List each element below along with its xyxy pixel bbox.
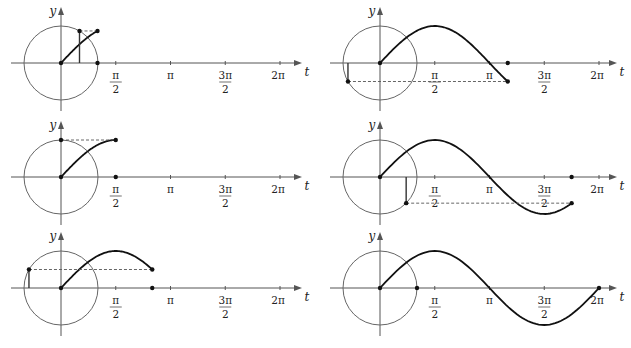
tick-label-half_pi-denominator: 2: [112, 83, 119, 95]
y-axis-arrow-icon: [58, 121, 64, 129]
tick-label-half_pi-numerator: π: [112, 183, 119, 195]
y-axis-arrow-icon: [377, 232, 383, 240]
origin-point: [378, 286, 382, 290]
t-axis-label: t: [305, 290, 310, 304]
t-value-marker: [569, 175, 573, 179]
t-value-marker: [114, 175, 118, 179]
tick-label-two_pi: 2π: [590, 183, 604, 195]
tick-label-three_half_pi-denominator: 2: [541, 83, 548, 95]
tick-label-two_pi: 2π: [271, 294, 285, 306]
y-axis-arrow-icon: [58, 232, 64, 240]
circle-point: [59, 138, 63, 142]
tick-label-pi: π: [486, 294, 493, 306]
t-axis-arrow-icon: [294, 60, 302, 66]
circle-point: [346, 79, 350, 83]
tick-label-half_pi-numerator: π: [431, 183, 438, 195]
curve-endpoint: [114, 138, 118, 142]
t-axis-label: t: [620, 65, 625, 79]
panel-panel-t-7pi-over-6: ytπ2π3π22π: [330, 4, 625, 111]
panel-panel-t-pi-over-2: ytπ2π3π22π: [11, 118, 310, 225]
sine-unit-circle-figure: ytπ2π3π22πytπ2π3π22πytπ2π3π22πytπ2π3π22π…: [0, 0, 631, 348]
t-axis-label: t: [620, 290, 625, 304]
panel-panel-t-2pi: ytπ2π3π22π: [330, 229, 625, 336]
y-axis-label: y: [368, 229, 376, 243]
tick-label-half_pi-numerator: π: [112, 69, 119, 81]
y-axis-arrow-icon: [377, 7, 383, 15]
tick-label-half_pi-denominator: 2: [112, 197, 119, 209]
t-value-marker: [150, 286, 154, 290]
t-axis-arrow-icon: [294, 285, 302, 291]
figure-canvas: ytπ2π3π22πytπ2π3π22πytπ2π3π22πytπ2π3π22π…: [0, 0, 631, 348]
tick-label-two_pi: 2π: [590, 69, 604, 81]
tick-label-half_pi-numerator: π: [431, 294, 438, 306]
tick-label-pi: π: [486, 69, 493, 81]
curve-endpoint: [506, 79, 510, 83]
y-axis-label: y: [368, 4, 376, 18]
curve-endpoint: [569, 201, 573, 205]
tick-label-three_half_pi-denominator: 2: [222, 197, 229, 209]
origin-point: [59, 175, 63, 179]
origin-point: [378, 61, 382, 65]
tick-label-three_half_pi-denominator: 2: [222, 83, 229, 95]
t-axis-arrow-icon: [609, 60, 617, 66]
tick-label-three_half_pi-numerator: 3π: [537, 294, 551, 306]
tick-label-pi: π: [167, 183, 174, 195]
tick-label-three_half_pi-numerator: 3π: [537, 69, 551, 81]
tick-label-pi: π: [486, 183, 493, 195]
tick-label-two_pi: 2π: [271, 69, 285, 81]
t-axis-label: t: [305, 65, 310, 79]
t-axis-label: t: [620, 179, 625, 193]
tick-label-two_pi: 2π: [271, 183, 285, 195]
y-axis-arrow-icon: [377, 121, 383, 129]
y-axis-label: y: [49, 4, 57, 18]
panel-panel-t-7pi-over-4: ytπ2π3π22π: [330, 118, 625, 225]
sine-curve: [61, 140, 116, 177]
curve-endpoint: [597, 286, 601, 290]
origin-point: [59, 286, 63, 290]
curve-endpoint: [95, 29, 99, 33]
tick-label-pi: π: [167, 294, 174, 306]
tick-label-pi: π: [167, 69, 174, 81]
tick-label-half_pi-denominator: 2: [431, 308, 438, 320]
tick-label-half_pi-numerator: π: [112, 294, 119, 306]
tick-label-three_half_pi-denominator: 2: [222, 308, 229, 320]
curve-endpoint: [150, 267, 154, 271]
panel-panel-t-5pi-over-6: ytπ2π3π22π: [11, 229, 310, 336]
y-axis-arrow-icon: [58, 7, 64, 15]
tick-label-three_half_pi-denominator: 2: [541, 308, 548, 320]
origin-point: [378, 175, 382, 179]
tick-label-three_half_pi-numerator: 3π: [218, 294, 232, 306]
t-value-marker: [506, 61, 510, 65]
t-value-marker: [95, 61, 99, 65]
panel-panel-t-pi-over-3: ytπ2π3π22π: [11, 4, 310, 111]
t-axis-arrow-icon: [294, 174, 302, 180]
y-axis-label: y: [368, 118, 376, 132]
y-axis-label: y: [49, 229, 57, 243]
circle-point: [77, 29, 81, 33]
tick-label-half_pi-denominator: 2: [112, 308, 119, 320]
tick-label-three_half_pi-numerator: 3π: [218, 183, 232, 195]
t-axis-label: t: [305, 179, 310, 193]
t-axis-arrow-icon: [609, 285, 617, 291]
circle-point: [415, 286, 419, 290]
tick-label-three_half_pi-numerator: 3π: [537, 183, 551, 195]
tick-label-three_half_pi-numerator: 3π: [218, 69, 232, 81]
tick-label-half_pi-denominator: 2: [431, 83, 438, 95]
y-axis-label: y: [49, 118, 57, 132]
circle-point: [404, 201, 408, 205]
circle-point: [27, 267, 31, 271]
t-axis-arrow-icon: [609, 174, 617, 180]
origin-point: [59, 61, 63, 65]
tick-label-half_pi-numerator: π: [431, 69, 438, 81]
